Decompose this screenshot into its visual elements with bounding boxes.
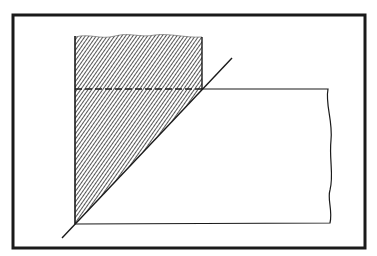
- hatched-region: [70, 30, 210, 230]
- diagram-figure: [0, 0, 377, 256]
